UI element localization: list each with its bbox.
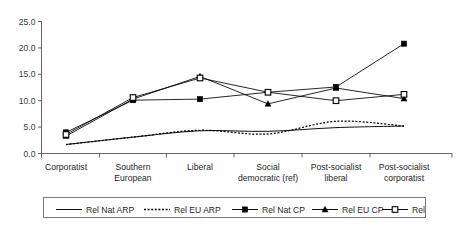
data-point-marker xyxy=(333,98,339,104)
x-axis-category-label: Corporatist xyxy=(45,162,88,172)
legend-label: Rel Nat CP xyxy=(262,205,305,215)
y-axis-tick-label: 10.0 xyxy=(19,96,36,106)
data-point-marker xyxy=(265,89,271,95)
data-point-marker xyxy=(63,132,69,138)
legend-label: Rel Nat ARP xyxy=(86,205,135,215)
series-line-rel-eu-arp xyxy=(66,121,404,144)
y-axis: 0.05.010.015.020.025.0 xyxy=(19,17,42,159)
series-line-rel-mix-cp xyxy=(66,78,404,134)
x-axis-category-label: Social xyxy=(256,162,279,172)
legend-marker-swatch xyxy=(392,207,398,213)
legend-entry: Rel Mix CP xyxy=(382,205,425,215)
data-point-marker xyxy=(197,97,202,102)
legend-entry: Rel EU ARP xyxy=(144,205,221,215)
legend-entry: Rel Nat CP xyxy=(232,205,305,215)
data-point-marker xyxy=(401,92,407,98)
series-line-rel-nat-arp xyxy=(66,126,404,144)
series-line-rel-nat-cp xyxy=(66,44,404,133)
x-axis-category-label: liberal xyxy=(325,173,348,183)
legend-entry: Rel Nat ARP xyxy=(56,205,135,215)
legend-label: Rel EU ARP xyxy=(174,205,221,215)
line-chart: 0.05.010.015.020.025.0 CorporatistSouthe… xyxy=(0,0,469,231)
legend-label: Rel Mix CP xyxy=(412,205,425,215)
x-axis-category-label: Post-socialist xyxy=(379,162,430,172)
legend-label: Rel EU CP xyxy=(342,205,384,215)
legend-entry: Rel EU CP xyxy=(312,205,384,215)
chart-legend: Rel Nat ARPRel EU ARPRel Nat CPRel EU CP… xyxy=(43,197,426,218)
category-labels: CorporatistSouthernEuropeanLiberalSocial… xyxy=(45,162,430,183)
data-point-marker xyxy=(401,41,406,46)
x-axis-category-label: Post-socialist xyxy=(311,162,362,172)
y-axis-tick-label: 5.0 xyxy=(24,122,36,132)
x-axis xyxy=(42,154,453,158)
x-axis-category-label: European xyxy=(114,173,151,183)
x-axis-category-label: democratic (ref) xyxy=(238,173,298,183)
data-point-marker xyxy=(197,75,203,81)
x-axis-category-label: Liberal xyxy=(187,162,213,172)
y-axis-tick-label: 20.0 xyxy=(19,43,36,53)
y-axis-tick-label: 15.0 xyxy=(19,69,36,79)
y-axis-tick-label: 25.0 xyxy=(19,17,36,27)
data-point-marker xyxy=(130,95,136,101)
x-axis-category-label: Southern xyxy=(116,162,151,172)
series-layer xyxy=(63,41,407,144)
legend-canvas: Rel Nat ARPRel EU ARPRel Nat CPRel EU CP… xyxy=(44,198,425,217)
y-axis-tick-label: 0.0 xyxy=(24,149,36,159)
legend-marker-swatch xyxy=(242,207,247,212)
x-axis-category-label: corporatist xyxy=(384,173,425,183)
